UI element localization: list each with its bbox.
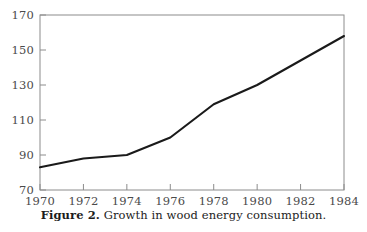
y-tick-label: 110 (0, 113, 34, 127)
plot-frame (40, 15, 344, 190)
data-series-line (40, 36, 344, 167)
line-chart-svg (0, 0, 367, 200)
y-tick-label: 150 (0, 43, 34, 57)
caption-text: Growth in wood energy consumption. (104, 208, 327, 222)
figure-container: 7090110130150170 19701972197419761978198… (0, 0, 367, 232)
axis-tick-marks (40, 15, 344, 190)
chart-plot-area: 7090110130150170 19701972197419761978198… (0, 0, 367, 200)
y-tick-label: 170 (0, 8, 34, 22)
x-tick-label: 1976 (155, 194, 185, 208)
x-tick-label: 1978 (199, 194, 229, 208)
y-tick-label: 90 (0, 148, 34, 162)
x-tick-label: 1970 (25, 194, 55, 208)
x-tick-label: 1972 (68, 194, 98, 208)
x-tick-label: 1984 (329, 194, 359, 208)
x-tick-label: 1980 (242, 194, 272, 208)
x-tick-label: 1982 (286, 194, 316, 208)
figure-caption: Figure 2. Growth in wood energy consumpt… (0, 208, 367, 222)
caption-label: Figure 2. (41, 208, 100, 222)
y-tick-label: 130 (0, 78, 34, 92)
x-tick-label: 1974 (112, 194, 142, 208)
plot-frame-rect (40, 15, 344, 190)
